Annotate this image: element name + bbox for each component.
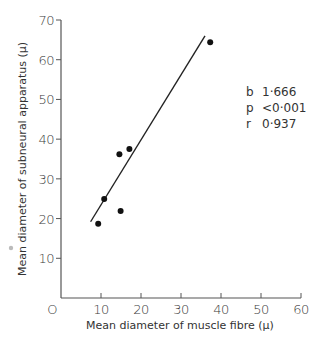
x-tick-label: 50 [253,302,269,317]
y-tick-label: 60 [38,53,54,68]
x-tick-label: 10 [93,302,109,317]
y-tick-label: 50 [38,92,54,107]
data-point [116,151,122,157]
x-tick-label: 60 [293,302,309,317]
data-point [207,39,213,45]
stat-r: r 0·937 [246,116,306,132]
x-ticks: O102030405060 [47,293,309,317]
stat-p: p<0·001 [246,100,306,116]
y-tick-label: 40 [38,132,54,147]
data-point [126,146,132,152]
data-points [95,39,213,226]
scatter-chart: 10203040506070 O102030405060 Mean diamet… [0,0,331,342]
regression-line [91,36,205,222]
x-tick-label: O [47,302,57,317]
y-tick-label: 70 [38,13,54,28]
stray-mark [9,246,13,250]
x-tick-label: 20 [133,302,149,317]
y-axis-label: Mean diameter of subneural apparatus (μ) [16,42,29,276]
data-point [101,196,107,202]
x-tick-label: 30 [173,302,189,317]
y-tick-label: 20 [38,212,54,227]
regression-stats: b 1·666 p<0·001 r 0·937 [246,84,306,132]
stat-b: b 1·666 [246,84,306,100]
data-point [95,221,101,227]
x-tick-label: 40 [213,302,229,317]
y-tick-label: 30 [38,172,54,187]
y-tick-label: 10 [38,251,54,266]
x-axis-label: Mean diameter of muscle fibre (μ) [86,319,274,332]
data-point [118,208,124,214]
y-ticks: 10203040506070 [38,13,61,266]
